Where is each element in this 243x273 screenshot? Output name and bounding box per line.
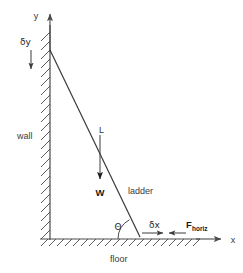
ladder-group — [50, 50, 140, 237]
wall-label: wall — [16, 131, 33, 141]
ladder-line — [50, 50, 140, 237]
delta-x-label: δx — [149, 220, 161, 230]
y-axis-label: y — [34, 11, 39, 21]
weight-label: W — [96, 187, 105, 198]
ladder-diagram-svg: y x δy δx wall floor ladder L W Θ F hori… — [0, 0, 243, 273]
floor-label: floor — [110, 254, 128, 264]
floor-group — [40, 239, 200, 246]
wall-group — [41, 25, 50, 240]
x-axis-label: x — [231, 235, 236, 245]
theta-label: Θ — [114, 222, 121, 232]
ladder-length-label: L — [99, 125, 104, 135]
floor-hatching — [41, 239, 200, 246]
axes-group — [50, 14, 221, 239]
force-horiz-subscript-label: horiz — [192, 225, 208, 232]
ladder-label: ladder — [128, 186, 153, 196]
delta-y-label: δy — [20, 37, 32, 47]
wall-hatching — [41, 32, 50, 239]
force-horiz-label-group: F horiz — [186, 219, 208, 232]
ladder-diagram: y x δy δx wall floor ladder L W Θ F hori… — [0, 0, 243, 273]
